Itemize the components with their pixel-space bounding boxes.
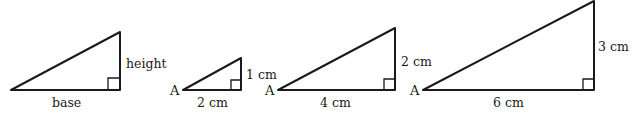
triangle-small: A 2 cm 1 cm: [169, 58, 277, 110]
height-label: height: [126, 56, 167, 71]
vertex-a-label: A: [169, 83, 180, 98]
triangle-medium: A 4 cm 2 cm: [264, 28, 432, 110]
triangle-small-outline: [183, 58, 241, 90]
triangle-large-outline: [423, 1, 594, 90]
triangle-generic-outline: [11, 32, 120, 90]
base-label: 2 cm: [197, 95, 228, 110]
height-label: 3 cm: [598, 39, 629, 54]
base-label: 4 cm: [320, 95, 351, 110]
base-label: 6 cm: [493, 95, 524, 110]
similar-triangles-diagram: base height A 2 cm 1 cm A 4 cm 2 cm A 6 …: [0, 0, 632, 114]
right-angle-marker: [108, 78, 120, 90]
vertex-a-label: A: [264, 83, 275, 98]
right-angle-marker: [231, 80, 241, 90]
right-angle-marker: [583, 79, 594, 90]
vertex-a-label: A: [409, 83, 420, 98]
right-angle-marker: [384, 79, 395, 90]
triangle-large: A 6 cm 3 cm: [409, 1, 629, 110]
height-label: 1 cm: [246, 67, 277, 82]
triangle-generic: base height: [11, 32, 167, 110]
triangle-medium-outline: [278, 28, 395, 90]
height-label: 2 cm: [401, 54, 432, 69]
base-label: base: [52, 95, 81, 110]
